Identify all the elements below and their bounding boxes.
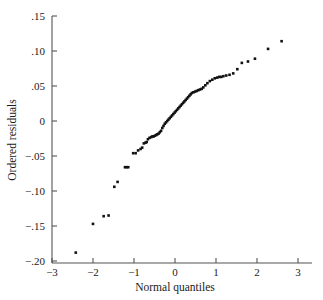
x-axis (52, 258, 312, 263)
data-point (137, 149, 140, 152)
data-point (145, 141, 148, 144)
y-tick-label: 0 (40, 115, 46, 127)
y-tick-label: −.05 (25, 150, 45, 162)
x-tick-label: −2 (87, 266, 99, 278)
y-tick-label: −.15 (25, 220, 45, 232)
data-point (228, 74, 231, 77)
x-tick-labels: −3−2−10123 (46, 266, 301, 278)
data-point (225, 74, 228, 77)
y-tick-labels: .15.10.050−.05−.10−.15−.20 (25, 10, 45, 267)
data-point (134, 152, 137, 155)
x-tick-label: 2 (254, 266, 260, 278)
x-axis-title: Normal quantiles (135, 281, 215, 294)
y-tick-label: .15 (31, 10, 45, 22)
x-tick-label: 3 (295, 266, 301, 278)
qq-plot-figure: .15.10.050−.05−.10−.15−.20 −3−2−10123 No… (0, 0, 323, 300)
data-point (209, 80, 212, 83)
data-point (127, 166, 130, 169)
data-point (116, 181, 119, 184)
data-point (213, 77, 216, 80)
data-point (232, 72, 235, 75)
data-point (254, 57, 257, 60)
data-point (74, 251, 77, 254)
data-point (160, 130, 163, 133)
x-tick-label: −3 (46, 266, 58, 278)
data-point (236, 68, 239, 71)
y-tick-label: −.20 (25, 255, 45, 267)
data-point (267, 48, 270, 51)
y-tick-label: −.10 (25, 185, 45, 197)
data-point (280, 40, 283, 43)
x-tick-label: 0 (172, 266, 178, 278)
data-point (247, 60, 250, 63)
x-tick-label: −1 (128, 266, 140, 278)
data-point (102, 215, 105, 218)
y-axis (52, 16, 57, 263)
y-tick-label: .10 (31, 45, 45, 57)
data-point (92, 223, 95, 226)
scatter-points (74, 40, 282, 254)
data-point (222, 75, 225, 78)
data-point (141, 146, 144, 149)
data-point (132, 152, 135, 155)
data-point (107, 214, 110, 217)
data-point (206, 82, 209, 85)
plot-canvas: .15.10.050−.05−.10−.15−.20 −3−2−10123 No… (0, 0, 323, 300)
y-tick-label: .05 (31, 80, 45, 92)
data-point (113, 186, 116, 189)
y-axis-title: Ordered residuals (6, 99, 18, 181)
x-tick-label: 1 (213, 266, 219, 278)
data-point (241, 62, 244, 65)
data-point (211, 78, 214, 81)
